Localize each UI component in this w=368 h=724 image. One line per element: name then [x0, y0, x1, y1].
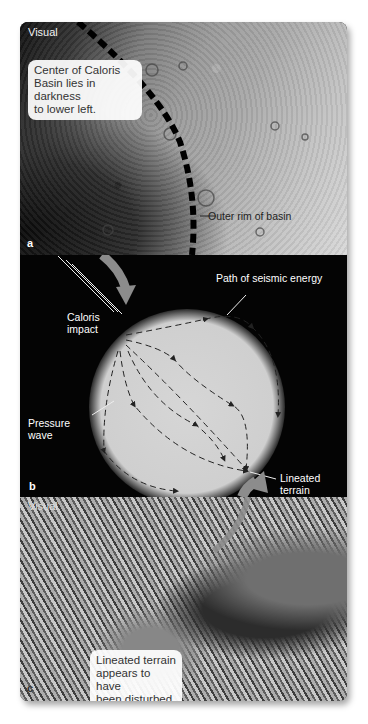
panel-letter-c: c — [27, 682, 33, 694]
label-line: terrain — [280, 484, 320, 496]
incoming-arrow — [116, 285, 136, 305]
visual-label: Visual — [28, 26, 58, 38]
lineated-terrain-label: Lineated terrain — [280, 472, 320, 496]
callout-line: Basin lies in darkness — [34, 77, 136, 103]
panel-a-mercury-image: Visual Center of Caloris Basin lies in d… — [20, 22, 347, 255]
label-line: wave — [28, 429, 70, 441]
label-line: Lineated — [280, 472, 320, 484]
callout-line: Center of Caloris — [34, 64, 136, 77]
panel-letter-a: a — [27, 237, 33, 249]
label-line: Caloris — [67, 311, 100, 323]
panel-letter-b: b — [29, 480, 36, 492]
rim-dashed-line — [20, 22, 347, 255]
callout-caloris-center: Center of Caloris Basin lies in darkness… — [28, 60, 142, 120]
label-line: Pressure — [28, 417, 70, 429]
caloris-impact-label: Caloris impact — [67, 311, 100, 335]
arrow-continuation — [20, 497, 347, 701]
label-line: impact — [67, 323, 100, 335]
seismic-diagram — [20, 255, 347, 497]
panel-b-seismic-diagram: Path of seismic energy Caloris impact Pr… — [20, 255, 347, 497]
panel-c-lineated-terrain-image: Visual Lineated terrain appears to have … — [20, 497, 347, 701]
figure: Visual Center of Caloris Basin lies in d… — [20, 22, 347, 701]
outer-rim-label: Outer rim of basin — [208, 210, 291, 222]
mercury-planet — [89, 309, 285, 497]
callout-line: appears to have — [96, 667, 176, 693]
seismic-path-label: Path of seismic energy — [216, 272, 322, 284]
callout-line: to lower left. — [34, 103, 136, 116]
callout-disturbed-terrain: Lineated terrain appears to have been di… — [90, 650, 182, 701]
callout-line: been disturbed. — [96, 693, 176, 701]
visual-label: Visual — [28, 500, 58, 512]
pressure-wave-label: Pressure wave — [28, 417, 70, 441]
callout-line: Lineated terrain — [96, 654, 176, 667]
